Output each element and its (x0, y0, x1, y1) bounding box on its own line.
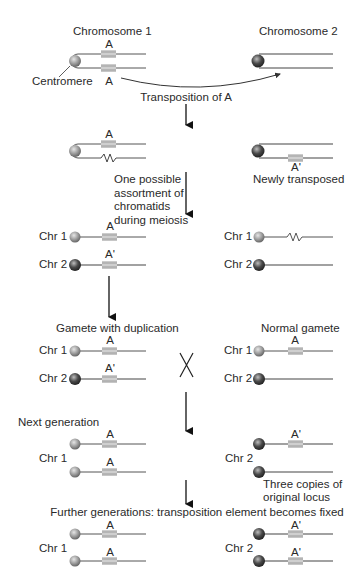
gene-band-a-prime (288, 440, 303, 448)
centromere-icon (69, 145, 81, 157)
gene-band-a (102, 468, 117, 476)
chr2-label: Chr 2 (39, 372, 67, 385)
centromere-icon (70, 467, 81, 478)
gene-label-a: A (106, 519, 114, 531)
transposition-arrow (121, 74, 280, 87)
gene-label-a-prime: A' (291, 161, 301, 173)
gene-band-a (102, 233, 117, 241)
chromosome1-title: Chromosome 1 (73, 25, 152, 38)
chromosome2-after-transposition (252, 144, 334, 162)
centromere-icon (252, 145, 265, 158)
chr2-label: Chr 2 (225, 542, 253, 555)
centromere-icon (70, 439, 81, 450)
gene-band-a (101, 64, 116, 72)
gene-band-a (101, 140, 116, 148)
gene-band-a (102, 347, 117, 355)
gene-band-a-prime (288, 557, 303, 565)
centromere-icon (70, 556, 81, 567)
chr1-label: Chr 1 (224, 230, 252, 243)
chr1-label: Chr 1 (39, 542, 67, 555)
gene-band-a (101, 50, 116, 58)
centromere-label: Centromere (32, 75, 93, 88)
gene-band-a (102, 440, 117, 448)
gene-label-a: A (105, 128, 113, 140)
gene-label-a: A (105, 38, 113, 50)
centromere-icon (70, 529, 81, 540)
gene-label-a: A (106, 546, 114, 558)
excision-zigzag (101, 154, 116, 162)
centromere-icon (253, 373, 265, 385)
gene-band-a-prime (102, 375, 117, 383)
centromere-icon (252, 55, 265, 68)
gene-label-a-prime: A' (105, 248, 115, 260)
transposition-label: Transposition of A (140, 91, 232, 104)
cross-icon (180, 353, 193, 377)
chromosome2-top (252, 54, 334, 68)
centromere-icon (70, 346, 81, 357)
chr2-label: Chr 2 (39, 258, 67, 271)
chr2-label: Chr 2 (224, 372, 252, 385)
gamete-normal (253, 346, 333, 386)
centromere-icon (253, 259, 265, 271)
centromere-icon (253, 466, 265, 478)
gene-label-a: A (106, 456, 114, 468)
centromere-icon (253, 555, 265, 567)
gene-band-a-prime (288, 530, 303, 538)
centromere-icon (254, 346, 265, 357)
further-generations-title: Further generations: transposition eleme… (50, 506, 343, 519)
assortment-note: One possible assortment of chromatids du… (114, 173, 188, 227)
gene-band-a-prime (102, 261, 117, 269)
centromere-icon (69, 373, 81, 385)
newly-transposed-label: Newly transposed (253, 173, 344, 186)
gene-label-a-prime: A' (291, 519, 301, 531)
gene-band-a (288, 347, 303, 355)
gene-label-a-prime: A' (291, 546, 301, 558)
three-copies-label: Three copies of original locus (263, 478, 342, 504)
chromosome2-title: Chromosome 2 (259, 25, 338, 38)
gene-label-a: A (106, 428, 114, 440)
gene-label-a: A (106, 220, 114, 232)
chr1-label: Chr 1 (39, 344, 67, 357)
normal-gamete-title: Normal gamete (261, 322, 340, 335)
chromosome1-after-transposition (69, 140, 146, 162)
gene-band-a (102, 530, 117, 538)
centromere-icon (69, 259, 81, 271)
centromere-icon (254, 232, 265, 243)
chr2-label: Chr 2 (225, 452, 253, 465)
chr1-label: Chr 1 (39, 230, 67, 243)
gene-label-a: A (106, 334, 114, 346)
gene-label-a-prime: A' (291, 428, 301, 440)
gene-band-a (102, 557, 117, 565)
chr2-label: Chr 2 (224, 258, 252, 271)
next-gen-chr2 (253, 438, 333, 478)
gene-label-a: A (291, 334, 299, 346)
chromosome1-top (69, 50, 146, 72)
centromere-icon (70, 232, 81, 243)
chr1-label: Chr 1 (39, 452, 67, 465)
next-generation-title: Next generation (18, 416, 99, 429)
centromere-icon (253, 438, 265, 450)
centromere-icon (69, 55, 81, 67)
chr1-label: Chr 1 (224, 344, 252, 357)
centromere-icon (253, 528, 265, 540)
gene-label-a-prime: A' (105, 362, 115, 374)
assortment-right (253, 232, 333, 272)
gene-label-a: A (105, 75, 113, 87)
gamete-duplication-title: Gamete with duplication (56, 322, 179, 335)
